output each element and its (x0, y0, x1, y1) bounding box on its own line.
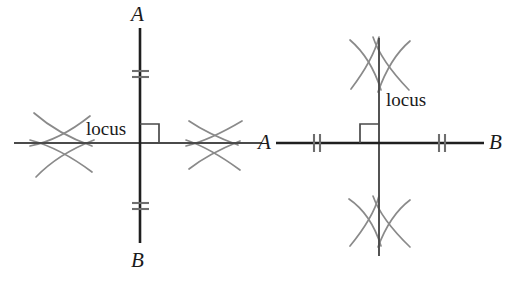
right-panel-construction (276, 37, 484, 256)
right-panel-locus-label: locus (386, 90, 426, 109)
left-panel-locus-label: locus (86, 119, 126, 138)
left-panel-label-b: B (131, 250, 144, 271)
left-panel-label-a: A (131, 4, 144, 25)
right-panel-label-b: B (489, 132, 502, 153)
arc-crossing-left-icon (30, 113, 94, 177)
arc-crossing-top-icon (350, 37, 410, 92)
arc-crossing-right-icon (186, 121, 242, 170)
right-angle-marker-icon (360, 124, 379, 143)
right-angle-marker-icon (140, 124, 159, 143)
right-panel-label-a: A (258, 132, 271, 153)
left-panel-construction (14, 28, 262, 243)
